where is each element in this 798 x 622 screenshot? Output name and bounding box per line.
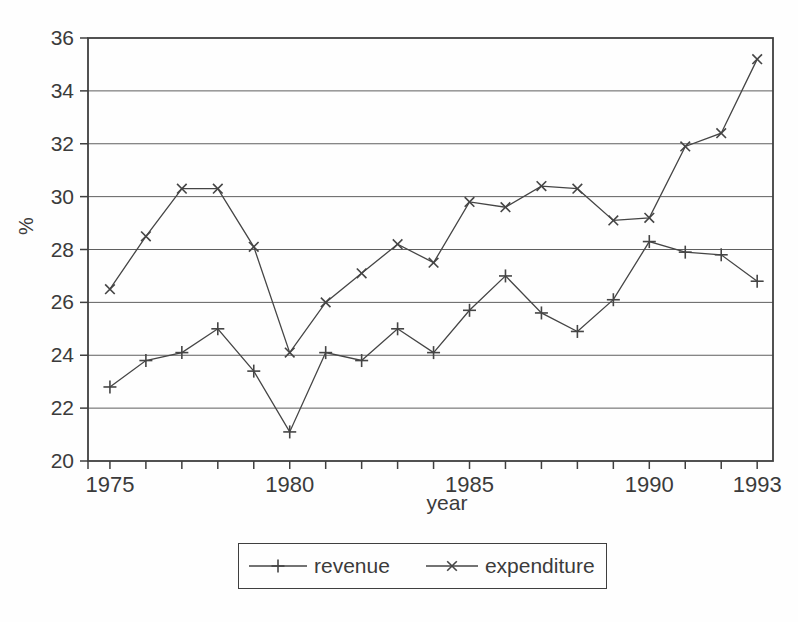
series-line-revenue	[110, 242, 757, 432]
legend-item-revenue: revenue	[249, 554, 390, 578]
legend-item-expenditure: expenditure	[426, 554, 595, 578]
expenditure-marker-icon	[426, 558, 478, 574]
y-axis-title: %	[15, 217, 37, 235]
y-tick-label: 24	[51, 343, 75, 366]
x-tick-label: 1980	[265, 472, 314, 497]
y-tick-label: 28	[51, 238, 74, 261]
y-tick-label: 30	[51, 185, 74, 208]
series-line-expenditure	[110, 59, 757, 353]
legend-box: revenue expenditure	[238, 543, 607, 589]
chart-figure: 20222426283032343619751980198519901993ye…	[0, 0, 798, 622]
revenue-marker-icon	[249, 558, 307, 574]
legend-label-revenue: revenue	[314, 554, 390, 578]
y-tick-label: 26	[51, 290, 74, 313]
y-tick-label: 36	[51, 26, 74, 49]
y-tick-label: 32	[51, 132, 74, 155]
y-tick-label: 22	[51, 396, 74, 419]
x-tick-label: 1993	[733, 472, 782, 497]
y-tick-label: 20	[51, 449, 74, 472]
x-axis-title: year	[427, 491, 468, 514]
series-expenditure	[105, 54, 762, 357]
legend-label-expenditure: expenditure	[485, 554, 595, 578]
x-tick-label: 1990	[625, 472, 674, 497]
y-tick-label: 34	[51, 79, 75, 102]
line-chart: 20222426283032343619751980198519901993ye…	[0, 0, 798, 622]
x-tick-label: 1975	[85, 472, 134, 497]
